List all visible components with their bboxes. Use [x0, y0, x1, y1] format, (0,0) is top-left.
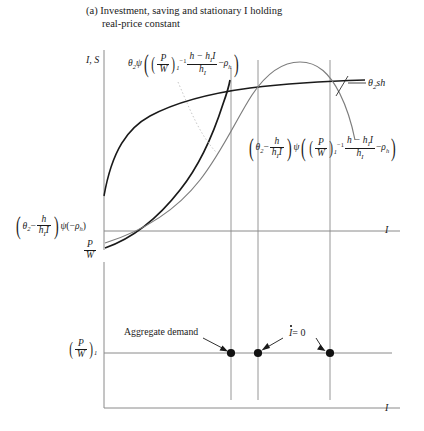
lower-x-axis-label: I: [385, 402, 388, 413]
left-intercept-formula: (θ2−hhII)ψ(−ρh): [14, 215, 86, 238]
saving-curve-leader: [336, 76, 348, 96]
investment-curve-formula: θ2ψ((PW)1−1h − hIIhI−ρh): [128, 52, 240, 76]
idot-arrowhead-right: [317, 345, 326, 352]
hump-curve-formula: (θ2−hhII)ψ((PW)1−1h − hIIhI−ρh): [247, 136, 398, 160]
figure-root: (a) Investment, saving and stationary I …: [0, 0, 424, 431]
upper-x-axis-label: I: [385, 224, 388, 235]
equilibrium-dot-2: [254, 349, 262, 357]
equilibrium-dot-3: [326, 349, 334, 357]
equilibrium-dot-1: [227, 349, 235, 357]
idot-zero-label: I= 0: [289, 328, 305, 338]
pw-left-axis-label: PW: [83, 240, 97, 261]
aggregate-demand-arrowhead: [220, 346, 229, 352]
lower-y-axis-label: (PW)1: [68, 339, 97, 360]
idot-symbol: I: [289, 328, 292, 338]
formula-leader-dotted: [178, 82, 216, 152]
saving-curve-label: θ2sh: [368, 78, 385, 91]
aggregate-demand-label: Aggregate demand: [124, 327, 198, 337]
idot-arrowhead-left: [262, 343, 271, 351]
upper-y-axis-label: I, S: [86, 54, 99, 65]
